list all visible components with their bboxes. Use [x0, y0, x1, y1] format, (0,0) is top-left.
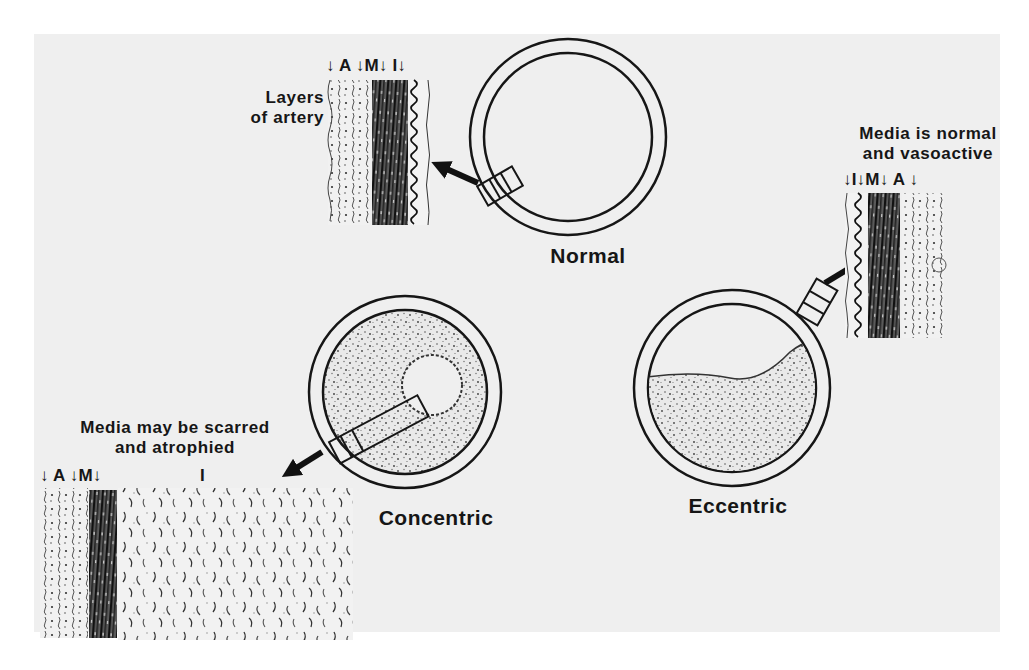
concentric-layer-labels: ↓ A ↓M↓	[40, 466, 102, 486]
normal-arrow-icon	[440, 166, 478, 183]
eccentric-layer-strip	[845, 193, 946, 338]
normal-layer-labels: ↓ A ↓M↓ I↓	[326, 56, 406, 76]
eccentric-callout: Media is normal and vasoactive	[828, 124, 1028, 163]
concentric-callout: Media may be scarred and atrophied	[35, 418, 315, 457]
eccentric-layer-labels: ↓I↓M↓ A ↓	[843, 170, 918, 190]
concentric-title: Concentric	[356, 506, 516, 530]
normal-title: Normal	[518, 244, 658, 268]
eccentric-sample-window	[797, 279, 838, 326]
concentric-intima-label: I	[200, 466, 205, 486]
eccentric-artery	[634, 193, 946, 486]
normal-callout: Layers of artery	[200, 88, 324, 127]
artery-diagram	[0, 0, 1029, 670]
eccentric-title: Eccentric	[668, 494, 808, 518]
concentric-layer-strip	[40, 488, 353, 640]
concentric-artery	[40, 296, 501, 640]
normal-layer-strip	[328, 80, 430, 225]
